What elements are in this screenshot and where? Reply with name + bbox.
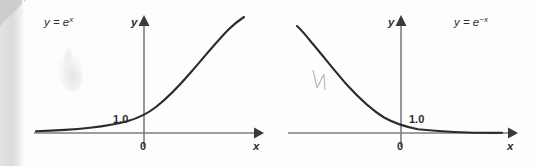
origin-label-right: 0 <box>397 140 403 152</box>
figure-canvas: y = ex y x 1.0 0 y = e−x y x 1.0 0 <box>0 0 537 166</box>
pencil-annotation-mark <box>313 70 325 90</box>
curve-exponential-decay <box>297 26 502 133</box>
chart-exponential-growth: y = ex y x 1.0 0 <box>0 0 268 166</box>
y-intercept-label-left: 1.0 <box>113 113 128 125</box>
equation-label-right-text: y = e <box>453 16 479 28</box>
equation-label-left: y = ex <box>43 15 74 28</box>
y-intercept-label-right: 1.0 <box>409 113 424 125</box>
chart-exponential-decay: y = e−x y x 1.0 0 <box>268 0 537 166</box>
equation-exponent-right: −x <box>479 15 489 24</box>
x-axis-label-left: x <box>252 140 260 152</box>
y-axis-label-right: y <box>387 16 395 28</box>
equation-label-right: y = e−x <box>453 15 489 28</box>
x-axis-label-right: x <box>506 140 514 152</box>
equation-label-left-text: y = e <box>43 16 69 28</box>
equation-exponent-left: x <box>68 15 74 24</box>
origin-label-left: 0 <box>140 140 146 152</box>
y-axis-arrowhead-right <box>396 15 407 26</box>
y-axis-label-left: y <box>130 16 138 28</box>
y-axis-arrowhead-left <box>139 15 150 26</box>
curve-exponential-growth <box>36 17 244 131</box>
x-axis-arrowhead-right <box>508 128 518 139</box>
x-axis-arrowhead-left <box>254 128 264 139</box>
